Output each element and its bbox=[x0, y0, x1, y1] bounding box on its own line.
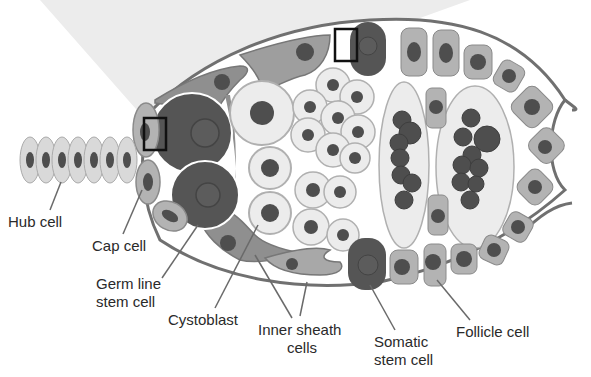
label-inner-sheath-cells-1: Inner sheath bbox=[258, 320, 341, 339]
label-follicle-cell: Follicle cell bbox=[456, 322, 529, 341]
label-cap-cell: Cap cell bbox=[92, 236, 146, 255]
label-somatic-stem-cell-2: stem cell bbox=[374, 350, 433, 369]
label-germ-line-stem-cell-1: Germ line bbox=[96, 274, 161, 293]
label-cystoblast: Cystoblast bbox=[168, 310, 238, 329]
label-inner-sheath-cells-2: cells bbox=[287, 338, 317, 357]
label-somatic-stem-cell-1: Somatic bbox=[374, 332, 428, 351]
hub-cells bbox=[20, 137, 137, 183]
label-germ-line-stem-cell-2: stem cell bbox=[96, 292, 155, 311]
label-hub-cell: Hub cell bbox=[8, 212, 62, 231]
